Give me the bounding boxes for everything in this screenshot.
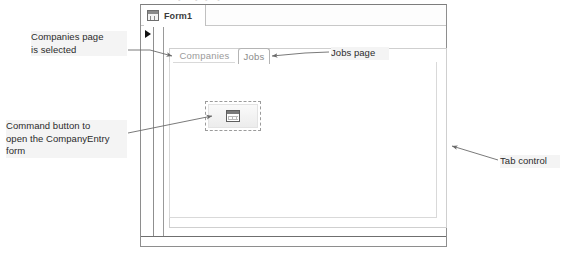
form-bottom-rule — [141, 236, 446, 237]
command-button-callout: Command button to open the CompanyEntry … — [6, 120, 127, 158]
document-tab-label: Form1 — [164, 11, 192, 21]
form-left-ruler-line — [153, 27, 154, 236]
form-design-icon — [147, 10, 159, 21]
record-selector-arrow-icon[interactable] — [145, 30, 151, 38]
tab-page-companies-surface[interactable] — [169, 62, 437, 218]
tab-companies[interactable]: Companies — [173, 48, 236, 63]
tab-jobs[interactable]: Jobs — [238, 48, 270, 64]
tab-control-callout: Tab control — [500, 155, 560, 168]
tab-control-tab-strip: Companies Jobs — [169, 48, 437, 63]
command-button-open-companyentry[interactable] — [208, 104, 258, 128]
jobs-page-callout: Jobs page — [331, 47, 389, 60]
form-section-divider-line — [163, 27, 164, 236]
companies-page-callout: Companies page is selected — [31, 31, 127, 56]
document-tab-form1[interactable]: Form1 — [144, 5, 206, 26]
tab-companies-label: Companies — [180, 50, 230, 61]
leader-tab-control — [452, 146, 498, 160]
tab-jobs-label: Jobs — [244, 51, 265, 62]
command-button-selection-wrap[interactable] — [205, 101, 261, 131]
open-form-icon — [226, 110, 240, 122]
